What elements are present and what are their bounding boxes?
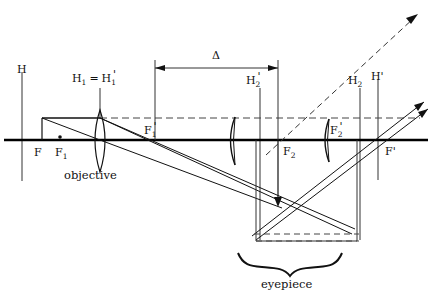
label-H2p-base: H bbox=[246, 74, 256, 87]
eyepiece-construction-box bbox=[254, 140, 359, 241]
text-labels: H H1=H1' H2' H2 H' Δ F F1 bbox=[17, 49, 396, 291]
label-F: F bbox=[34, 146, 42, 159]
label-Hprime: H' bbox=[371, 70, 384, 83]
diagram-canvas: H H1=H1' H2' H2 H' Δ F F1 bbox=[0, 0, 433, 293]
label-F2: F2 bbox=[283, 145, 296, 160]
label-F1prime: F1' bbox=[144, 120, 156, 139]
label-F2-sub: 2 bbox=[291, 151, 296, 160]
ray-chief-outgoing bbox=[100, 140, 282, 208]
label-F1-sub: 1 bbox=[63, 152, 68, 161]
ray-group bbox=[42, 14, 428, 240]
label-H2-sub: 2 bbox=[358, 80, 363, 89]
label-H1p-prime: ' bbox=[113, 68, 116, 81]
label-H1p-base: H bbox=[102, 72, 112, 85]
label-F2p-prime: ' bbox=[339, 120, 342, 133]
label-Fprime: F' bbox=[385, 145, 396, 158]
label-H2prime: H2' bbox=[246, 70, 261, 89]
curly-brace-path bbox=[238, 253, 342, 276]
label-Fp-prime: ' bbox=[393, 145, 396, 158]
exit-ray-b-arrowhead bbox=[418, 109, 428, 118]
ray-marginal-long-b bbox=[100, 118, 352, 234]
ray-marginal-long bbox=[100, 118, 355, 229]
dashed-ray-arrowhead bbox=[406, 14, 418, 24]
label-H2p-prime: ' bbox=[257, 70, 260, 83]
delta-arrowhead-left bbox=[155, 65, 165, 71]
label-H2: H2 bbox=[348, 74, 363, 89]
label-H: H bbox=[17, 63, 27, 76]
F1-point-marker bbox=[58, 135, 62, 139]
label-H1-sub: 1 bbox=[82, 78, 87, 87]
label-H1-equals-H1prime: H1=H1' bbox=[72, 68, 116, 87]
ray-chief-incoming bbox=[42, 118, 100, 140]
exit-ray-a-arrowhead bbox=[414, 102, 424, 111]
label-delta: Δ bbox=[212, 49, 220, 62]
label-objective: objective bbox=[64, 168, 117, 182]
optics-ray-diagram: H H1=H1' H2' H2 H' Δ F F1 bbox=[0, 0, 433, 293]
label-equals: = bbox=[89, 72, 98, 85]
eyepiece-brace bbox=[238, 253, 342, 276]
label-F2prime: F2' bbox=[330, 120, 343, 139]
label-H1-base: H bbox=[72, 72, 82, 85]
delta-arrowhead-right bbox=[268, 65, 278, 71]
label-F1p-prime: ' bbox=[153, 120, 156, 133]
label-Hp-base: H bbox=[371, 70, 381, 83]
label-Hp-prime: ' bbox=[381, 70, 384, 83]
label-H2-base: H bbox=[348, 74, 358, 87]
label-F1: F1 bbox=[55, 146, 67, 161]
label-eyepiece: eyepiece bbox=[261, 277, 312, 291]
reference-lines bbox=[4, 72, 428, 240]
